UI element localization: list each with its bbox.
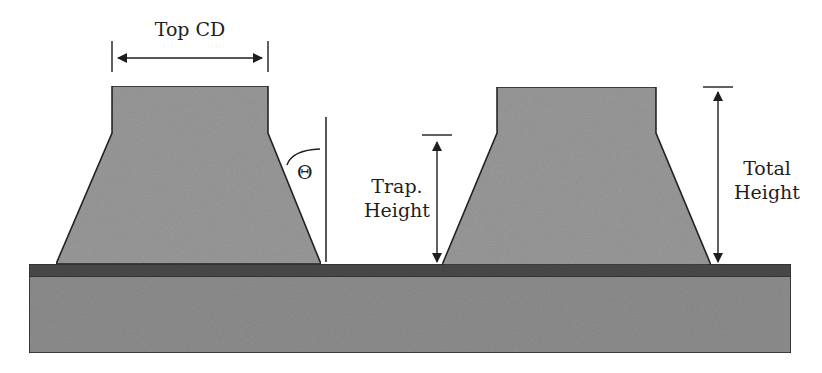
film-layer	[29, 264, 791, 277]
top-cd-label: Top CD	[150, 18, 230, 40]
trap-height-label-line2: Height	[362, 199, 432, 221]
total-height-label-line2: Height	[727, 181, 807, 203]
top-cd-dimension	[112, 41, 268, 72]
diagram-canvas: Top CD Θ Trap. Height Total Height	[0, 0, 822, 373]
trap-height-label-line1: Trap.	[362, 175, 432, 197]
left-trapezoid-feature	[56, 86, 321, 264]
theta-label: Θ	[297, 161, 313, 183]
substrate	[29, 276, 791, 353]
right-trapezoid-feature	[442, 87, 711, 265]
total-height-label-line1: Total	[727, 157, 807, 179]
